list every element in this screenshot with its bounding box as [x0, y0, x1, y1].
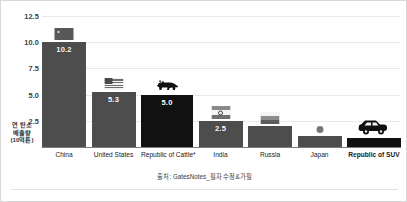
- category-label-china: China: [42, 149, 86, 161]
- bar-series: 10.2 5.3: [42, 9, 401, 147]
- bar-united-states[interactable]: 5.3: [92, 92, 136, 147]
- bar-slot-japan: [298, 9, 342, 147]
- bar-value-label: 5.0: [161, 98, 172, 107]
- y-tick-label: 12.5: [1, 12, 39, 21]
- bar-slot-china: 10.2: [42, 9, 86, 147]
- x-axis-line: [42, 147, 401, 148]
- bar-value-label: 5.3: [108, 95, 119, 104]
- bar-slot-united-states: 5.3: [92, 9, 136, 147]
- bar-china[interactable]: 10.2: [42, 42, 86, 147]
- y-tick-label: 5.0: [1, 91, 39, 100]
- y-tick-label: 7.5: [1, 64, 39, 73]
- flag-japan-icon: [313, 124, 326, 134]
- y-axis-title-line: 배출량: [3, 129, 41, 137]
- source-note: 출처: GatesNotes_필자 수정&가필: [1, 172, 407, 181]
- bar-republic-of-cattle[interactable]: 5.0: [141, 95, 193, 147]
- bar-republic-of-suv[interactable]: [347, 138, 401, 147]
- category-label-japan: Japan: [298, 149, 342, 161]
- y-tick-label: 10.0: [1, 38, 39, 47]
- bar-russia[interactable]: [248, 126, 292, 147]
- flag-russia-icon: [261, 112, 280, 124]
- category-label-united-states: United States: [92, 149, 136, 161]
- bar-slot-india: 2.5: [199, 9, 243, 147]
- y-axis-title-line: (10억톤): [3, 136, 41, 144]
- flag-china-icon: [55, 28, 74, 40]
- category-label-republic-of-suv: Republic of SUV: [347, 149, 401, 161]
- category-label-republic-of-cattle: Republic of Cattle*: [141, 149, 193, 161]
- cow-icon: [155, 78, 179, 93]
- bar-slot-republic-of-suv: [347, 9, 401, 147]
- flag-united-states-icon: [104, 78, 123, 90]
- suv-icon: [357, 119, 391, 136]
- y-axis-title-line: 연 탄소: [3, 121, 41, 129]
- bar-value-label: 10.2: [56, 45, 72, 54]
- bar-slot-russia: [248, 9, 292, 147]
- x-axis-category-labels: China United States Republic of Cattle* …: [42, 149, 401, 161]
- bar-japan[interactable]: [298, 136, 342, 147]
- y-axis-title: 연 탄소 배출량 (10억톤): [3, 121, 41, 144]
- bar-india[interactable]: 2.5: [199, 121, 243, 147]
- bar-slot-republic-of-cattle: 5.0: [141, 9, 193, 147]
- bar-value-label: 2.5: [215, 124, 226, 133]
- category-label-india: India: [199, 149, 243, 161]
- bottom-divider: [11, 189, 398, 190]
- category-label-russia: Russia: [248, 149, 292, 161]
- flag-india-icon: [211, 106, 230, 119]
- chart-figure: 12.5 10.0 7.5 5.0 2.5 연 탄소 배출량 (10억톤): [0, 0, 407, 202]
